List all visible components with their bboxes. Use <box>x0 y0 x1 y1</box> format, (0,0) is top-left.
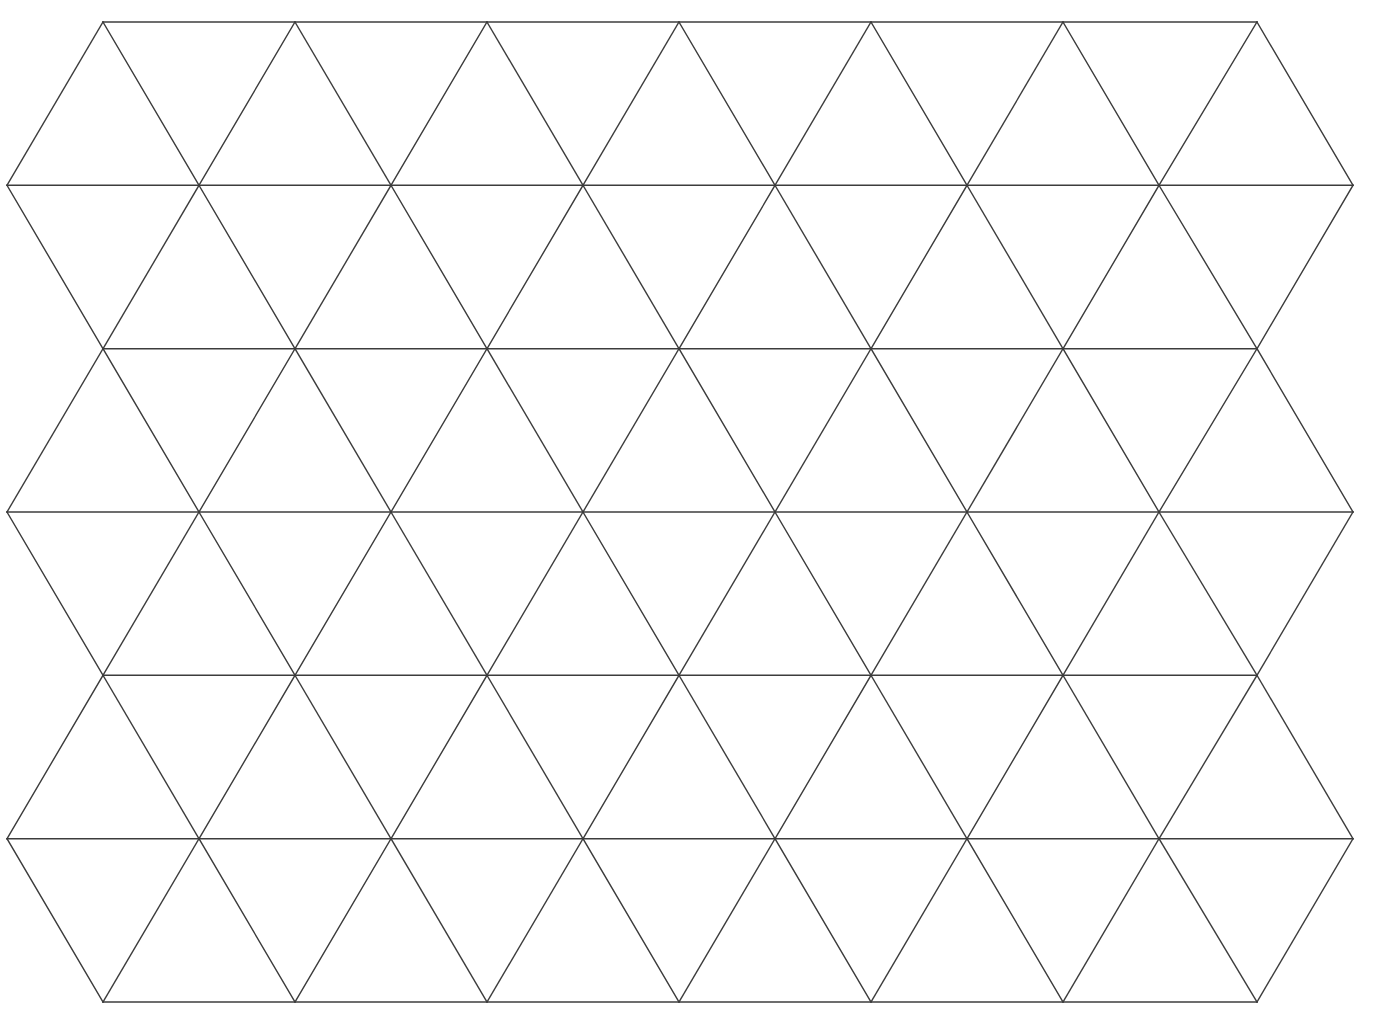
triangular-grid-diagram <box>0 0 1376 1034</box>
diagram-background <box>0 0 1376 1034</box>
figure-canvas: p g p y p <box>0 0 1376 1034</box>
